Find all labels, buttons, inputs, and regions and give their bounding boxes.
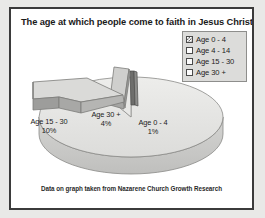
data-label-name: Age 15 - 30 — [30, 117, 67, 126]
legend-swatch-icon — [186, 47, 193, 54]
legend-swatch-icon — [186, 36, 193, 43]
chart-footnote: Data on graph taken from Nazarene Church… — [11, 185, 252, 192]
data-label-age-30-plus: Age 30 + 4% — [85, 110, 127, 128]
data-label-value: 4% — [85, 119, 127, 128]
pie-slice-age-0-4[interactable] — [130, 71, 138, 106]
screenshot-root: The age at which people come to faith in… — [0, 0, 265, 218]
data-label-name: Age 0 - 4 — [138, 118, 167, 127]
legend-item-age-0-4[interactable]: Age 0 - 4 — [186, 34, 243, 45]
legend-label: Age 4 - 14 — [196, 46, 230, 55]
data-label-name: Age 4 - 14 — [193, 207, 226, 210]
data-label-age-0-4: Age 0 - 4 1% — [129, 118, 177, 136]
data-label-value: 1% — [129, 127, 177, 136]
pie-plot-area: Age 15 - 30 10% Age 30 + 4% Age 0 - 4 1%… — [11, 55, 252, 175]
pie-chart-graphic — [11, 55, 252, 175]
data-label-age-4-14: Age 4 - 14 85% — [181, 207, 239, 210]
chart-title: The age at which people come to faith in… — [21, 17, 247, 28]
chart-frame: The age at which people come to faith in… — [9, 7, 254, 210]
legend-label: Age 0 - 4 — [196, 35, 226, 44]
data-label-age-15-30: Age 15 - 30 10% — [19, 117, 79, 135]
data-label-name: Age 30 + — [92, 110, 121, 119]
data-label-value: 10% — [19, 126, 79, 135]
